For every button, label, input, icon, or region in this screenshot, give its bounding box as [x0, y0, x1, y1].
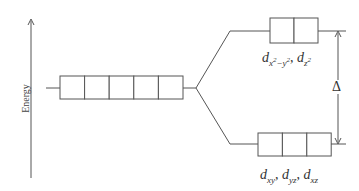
degenerate-d-level	[46, 76, 196, 99]
crystal-field-diagram: Energy Δ dx2−y2, dz2 dxy, dyz, dxz	[0, 0, 359, 191]
orbital-box	[60, 76, 85, 99]
diagram-canvas	[0, 0, 359, 191]
orbital-box	[270, 18, 294, 43]
orbital-box	[85, 76, 110, 99]
t2g-level	[258, 133, 346, 156]
orbital-box	[134, 76, 159, 99]
orbital-box	[258, 133, 282, 156]
splitting-delta-label: Δ	[332, 80, 341, 94]
t2g-orbital-label: dxy, dyz, dxz	[260, 167, 318, 185]
orbital-box	[158, 76, 183, 99]
energy-axis-label: Energy	[20, 76, 31, 122]
orbital-box	[109, 76, 134, 99]
orbital-box	[294, 18, 318, 43]
orbital-box	[307, 133, 331, 156]
orbital-box	[282, 133, 306, 156]
eg-orbital-label: dx2−y2, dz2	[262, 50, 311, 68]
eg-level	[270, 18, 346, 43]
splitting-lines	[196, 31, 270, 144]
